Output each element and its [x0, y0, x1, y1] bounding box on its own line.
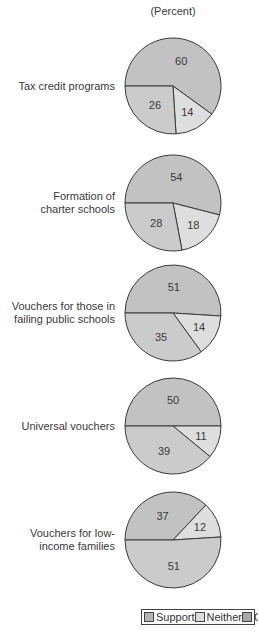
pie-chart: 511435 [125, 265, 221, 361]
support-swatch [144, 612, 154, 622]
neither-swatch [195, 612, 205, 622]
pie-label: Universal vouchers [21, 420, 115, 433]
legend-item-support: Support [144, 611, 195, 623]
oppose-value: 51 [168, 560, 180, 572]
neither-value: 12 [194, 521, 206, 533]
pie-label: Tax credit programs [18, 80, 115, 93]
support-value: 37 [156, 510, 168, 522]
support-value: 50 [167, 394, 179, 406]
pie-label: Formation ofcharter schools [40, 190, 115, 216]
oppose-value: 35 [155, 331, 167, 343]
legend-item-oppose: Oppose [242, 611, 258, 623]
pie-chart: 501139 [125, 378, 221, 474]
neither-value: 11 [195, 430, 206, 442]
legend-item-neither: Neither [195, 611, 242, 623]
neither-value: 18 [187, 219, 199, 231]
pie-chart: 541828 [125, 155, 221, 251]
legend: Support Neither Oppose [141, 609, 255, 625]
support-value: 54 [170, 171, 182, 183]
oppose-value: 26 [149, 99, 161, 111]
pie-chart: 601426 [125, 38, 221, 134]
oppose-value: 28 [150, 217, 162, 229]
neither-value: 14 [193, 321, 205, 333]
pie-label: Vouchers for low-income families [30, 527, 115, 553]
pie-chart: 371251 [125, 492, 221, 588]
pie-label: Vouchers for those infailing public scho… [12, 300, 115, 326]
support-value: 60 [175, 55, 187, 67]
oppose-swatch [242, 612, 252, 622]
neither-value: 14 [181, 106, 193, 118]
support-value: 51 [168, 281, 180, 293]
oppose-value: 39 [158, 445, 170, 457]
